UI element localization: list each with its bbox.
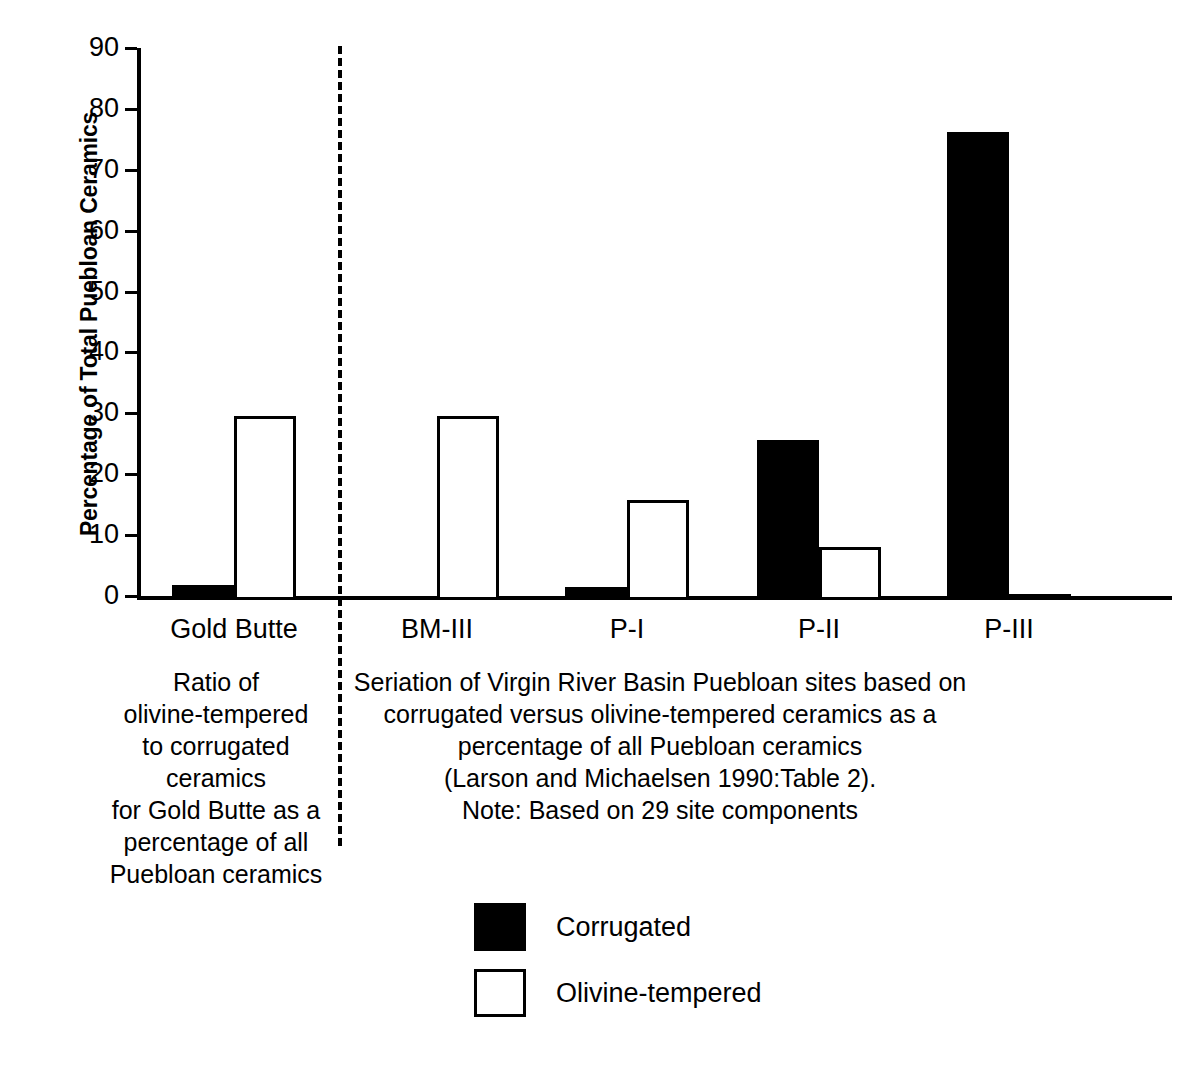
caption-right-line: corrugated versus olivine-tempered ceram… <box>352 698 968 730</box>
bar-gold-butte-olivine-tempered <box>234 416 296 600</box>
y-tick-mark <box>125 595 137 598</box>
y-tick-mark <box>125 351 137 354</box>
bar-p-i-corrugated <box>565 587 627 600</box>
y-tick-mark <box>125 108 137 111</box>
bar-p-ii-olivine-tempered <box>819 547 881 600</box>
legend-label: Corrugated <box>556 912 691 943</box>
caption-right-line: (Larson and Michaelsen 1990:Table 2). <box>352 762 968 794</box>
bar-p-iii-olivine-tempered <box>1009 594 1071 600</box>
bar-bm-iii-olivine-tempered <box>437 416 499 600</box>
y-tick-label: 60 <box>59 217 119 244</box>
legend-item-corrugated: Corrugated <box>474 898 762 956</box>
y-tick-label: 70 <box>59 156 119 183</box>
caption-left-line: percentage of all <box>100 826 332 858</box>
caption-right-line: Seriation of Virgin River Basin Puebloan… <box>352 666 968 698</box>
caption-right-line: percentage of all Puebloan ceramics <box>352 730 968 762</box>
caption-left-line: for Gold Butte as a <box>100 794 332 826</box>
legend-swatch-icon <box>474 969 526 1017</box>
y-tick-label: 0 <box>59 582 119 609</box>
caption-right: Seriation of Virgin River Basin Puebloan… <box>352 666 968 826</box>
x-label-p-iii: P-III <box>899 614 1119 645</box>
y-tick-label: 50 <box>59 278 119 305</box>
x-label-p-i: P-I <box>517 614 737 645</box>
y-tick-mark <box>125 291 137 294</box>
y-axis-title: Percentage of Total Puebloan Ceramics <box>66 50 112 598</box>
x-label-p-ii: P-II <box>709 614 929 645</box>
y-axis-line <box>137 48 141 600</box>
legend-label: Olivine-tempered <box>556 978 762 1009</box>
section-divider <box>338 46 342 846</box>
caption-left-line: olivine-tempered <box>100 698 332 730</box>
bar-gold-butte-corrugated <box>172 585 234 600</box>
caption-left: Ratio ofolivine-temperedto corrugated ce… <box>100 666 332 890</box>
legend-item-olivine-tempered: Olivine-tempered <box>474 964 762 1022</box>
y-tick-label: 90 <box>59 34 119 61</box>
y-tick-label: 40 <box>59 338 119 365</box>
bar-p-iii-corrugated <box>947 132 1009 600</box>
legend-swatch-icon <box>474 903 526 951</box>
x-label-gold-butte: Gold Butte <box>124 614 344 645</box>
x-label-bm-iii: BM-III <box>327 614 547 645</box>
caption-left-line: Ratio of <box>100 666 332 698</box>
y-tick-mark <box>125 412 137 415</box>
caption-left-line: Puebloan ceramics <box>100 858 332 890</box>
y-tick-label: 10 <box>59 521 119 548</box>
bar-chart-figure: Percentage of Total Puebloan Ceramics 90… <box>0 0 1204 1066</box>
y-tick-mark <box>125 534 137 537</box>
y-tick-label: 80 <box>59 95 119 122</box>
caption-right-line: Note: Based on 29 site components <box>352 794 968 826</box>
y-tick-mark <box>125 473 137 476</box>
y-tick-label: 20 <box>59 460 119 487</box>
bar-p-i-olivine-tempered <box>627 500 689 600</box>
bar-p-ii-corrugated <box>757 440 819 600</box>
y-tick-mark <box>125 169 137 172</box>
plot-area: 9080706050403020100 <box>137 48 1172 600</box>
chart-legend: CorrugatedOlivine-tempered <box>474 898 762 1030</box>
y-tick-label: 30 <box>59 399 119 426</box>
y-tick-mark <box>125 230 137 233</box>
caption-left-line: to corrugated ceramics <box>100 730 332 794</box>
y-tick-mark <box>125 47 137 50</box>
